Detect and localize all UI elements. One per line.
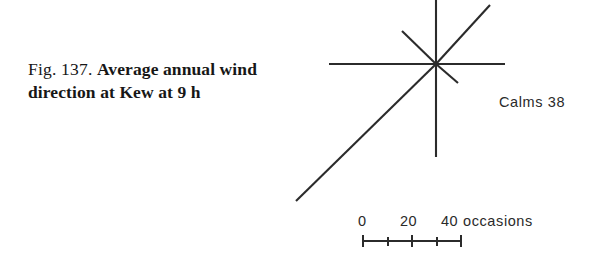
figure-wind-rose: Fig. 137. Average annual wind direction …	[0, 0, 595, 261]
scale-label-0: 0	[358, 213, 367, 229]
scale-label-20: 20	[400, 213, 417, 229]
scale-label-40: 40	[441, 213, 458, 229]
scale-unit-label: occasions	[463, 213, 533, 229]
